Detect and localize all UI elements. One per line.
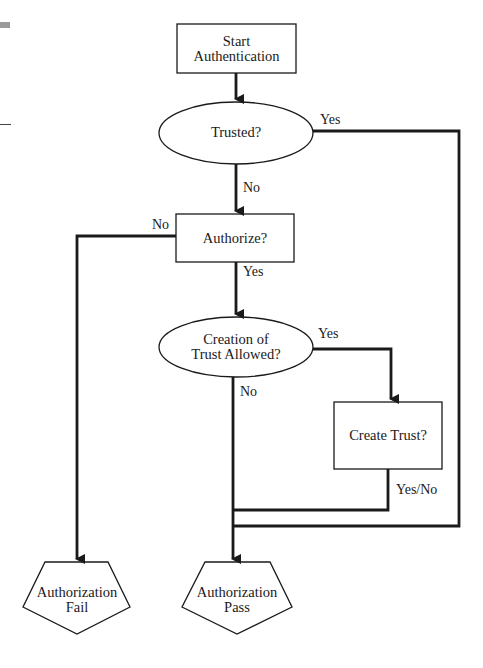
- start-node: Start Authentication: [177, 34, 296, 64]
- start-node-line2: Authentication: [177, 49, 296, 64]
- pass-node-line1: Authorization: [182, 585, 292, 600]
- pass-node: Authorization Pass: [182, 585, 292, 615]
- authorize-node-label: Authorize?: [176, 231, 294, 246]
- edge-label-authorize-yes: Yes: [243, 264, 263, 280]
- creation-node: Creation of Trust Allowed?: [159, 332, 313, 362]
- fail-node: Authorization Fail: [22, 585, 132, 615]
- trusted-node-label: Trusted?: [159, 125, 313, 140]
- authorize-node: Authorize?: [176, 231, 294, 246]
- edge-label-authorize-no: No: [152, 217, 169, 233]
- edge-label-trusted-no: No: [243, 180, 260, 196]
- create-trust-node-label: Create Trust?: [334, 428, 442, 443]
- edge-label-creation-no: No: [240, 384, 257, 400]
- creation-node-line1: Creation of: [159, 332, 313, 347]
- fail-node-line2: Fail: [22, 600, 132, 615]
- creation-node-line2: Trust Allowed?: [159, 347, 313, 362]
- fail-node-line1: Authorization: [22, 585, 132, 600]
- edge-label-trusted-yes: Yes: [320, 112, 340, 128]
- create-trust-node: Create Trust?: [334, 428, 442, 443]
- pass-node-line2: Pass: [182, 600, 292, 615]
- trusted-node: Trusted?: [159, 125, 313, 140]
- edge-label-create-trust-out: Yes/No: [396, 482, 437, 498]
- edge-label-creation-yes: Yes: [318, 326, 338, 342]
- start-node-line1: Start: [177, 34, 296, 49]
